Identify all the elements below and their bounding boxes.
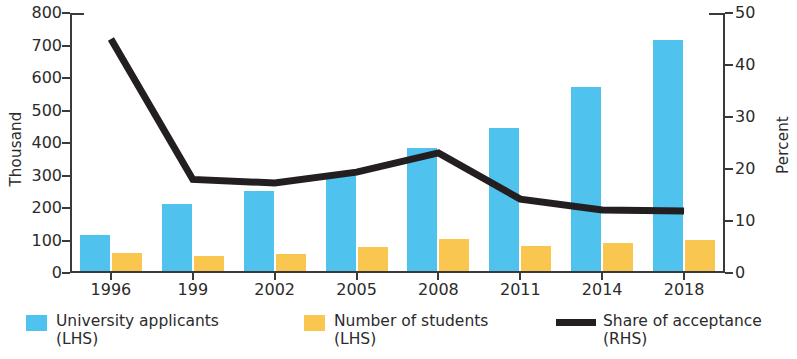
- legend-line-swatch-icon: [556, 319, 596, 326]
- y-tick-label-left: 700: [18, 38, 62, 54]
- y-tick-mark-left: [62, 45, 70, 47]
- y-tick-mark-left: [62, 110, 70, 112]
- x-tick-label: 2014: [562, 280, 642, 299]
- y-tick-label-right: 20: [735, 161, 779, 177]
- y-tick-mark-right: [725, 64, 733, 66]
- y-tick-mark-left: [62, 77, 70, 79]
- x-tick-label: 2018: [644, 280, 724, 299]
- line-series-overlay: [70, 13, 725, 273]
- y-tick-mark-right: [725, 168, 733, 170]
- y-tick-label-right: 0: [735, 265, 779, 281]
- legend-item-label: Share of acceptance (RHS): [603, 312, 762, 349]
- legend-item[interactable]: Share of acceptance (RHS): [556, 312, 762, 349]
- y-tick-mark-left: [62, 240, 70, 242]
- y-axis-left-ticks: 0100200300400500600700800: [18, 0, 62, 285]
- x-tick-label: 2005: [317, 280, 397, 299]
- x-tick-label: 2011: [480, 280, 560, 299]
- legend-item-label: University applicants (LHS): [56, 312, 219, 349]
- y-tick-mark-right: [725, 12, 733, 14]
- y-tick-label-right: 10: [735, 213, 779, 229]
- y-tick-label-right: 40: [735, 57, 779, 73]
- y-tick-label-left: 600: [18, 70, 62, 86]
- y-tick-mark-left: [62, 12, 70, 14]
- y-axis-right-ticks: 01020304050: [735, 0, 779, 285]
- legend-square-swatch-icon: [304, 315, 325, 331]
- y-tick-mark-left: [62, 142, 70, 144]
- y-tick-label-left: 500: [18, 103, 62, 119]
- y-tick-mark-right: [725, 220, 733, 222]
- y-tick-mark-right: [725, 116, 733, 118]
- chart-legend: University applicants (LHS)Number of stu…: [26, 312, 786, 358]
- y-tick-label-right: 50: [735, 5, 779, 21]
- y-tick-mark-right: [725, 272, 733, 274]
- legend-item-label: Number of students (LHS): [334, 312, 488, 349]
- y-tick-mark-left: [62, 272, 70, 274]
- legend-square-swatch-icon: [26, 315, 47, 331]
- y-tick-label-left: 200: [18, 200, 62, 216]
- chart-figure: Thousand Percent 01002003004005006007008…: [0, 0, 797, 359]
- legend-item[interactable]: Number of students (LHS): [304, 312, 488, 349]
- x-tick-label: 1996: [71, 280, 151, 299]
- y-tick-mark-left: [62, 175, 70, 177]
- y-tick-label-left: 400: [18, 135, 62, 151]
- legend-item[interactable]: University applicants (LHS): [26, 312, 219, 349]
- y-tick-label-right: 30: [735, 109, 779, 125]
- y-tick-label-left: 300: [18, 168, 62, 184]
- plot-area: [70, 13, 725, 273]
- x-tick-label: 2008: [398, 280, 478, 299]
- x-tick-label: 199: [153, 280, 233, 299]
- y-tick-label-left: 0: [18, 265, 62, 281]
- share-of-acceptance-line: [111, 39, 684, 211]
- y-tick-mark-left: [62, 207, 70, 209]
- y-tick-label-left: 800: [18, 5, 62, 21]
- x-tick-label: 2002: [235, 280, 315, 299]
- x-axis-tick-labels: 1996199200220052008201120142018: [70, 280, 725, 306]
- y-tick-label-left: 100: [18, 233, 62, 249]
